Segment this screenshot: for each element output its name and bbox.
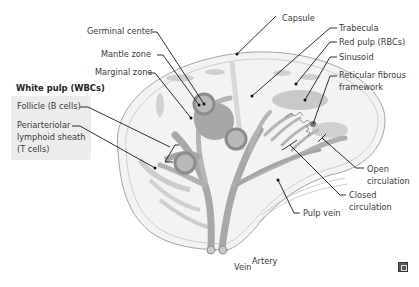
label-pals-2: lymphoid sheath [17, 132, 85, 142]
label-germinal-center: Germinal center [87, 26, 154, 36]
label-reticular-2: framework [339, 82, 383, 92]
label-vein: Vein [234, 262, 251, 272]
label-sinusoid: Sinusoid [339, 52, 374, 62]
label-pals-1: Periarteriolar [17, 120, 71, 130]
label-capsule: Capsule [282, 13, 315, 23]
label-marginal-zone: Marginal zone [95, 67, 152, 77]
label-open-2: circulation [367, 176, 410, 186]
label-pals-3: (T cells) [17, 144, 49, 154]
label-red-pulp: Red pulp (RBCs) [339, 37, 405, 47]
label-open-1: Open [367, 164, 389, 174]
label-closed-2: circulation [349, 202, 392, 212]
label-closed-1: Closed [349, 190, 377, 200]
label-trabecula: Trabecula [338, 23, 378, 33]
label-reticular-1: Reticular fibrous [339, 70, 406, 80]
label-artery: Artery [252, 256, 278, 266]
spleen-diagram: Germinal center Mantle zone Marginal zon… [0, 0, 419, 287]
label-white-pulp: White pulp (WBCs) [16, 83, 105, 93]
expand-icon[interactable] [398, 262, 408, 272]
label-mantle-zone: Mantle zone [101, 49, 151, 59]
label-pulp-vein: Pulp vein [303, 208, 340, 218]
label-follicle: Follicle (B cells) [17, 101, 81, 111]
